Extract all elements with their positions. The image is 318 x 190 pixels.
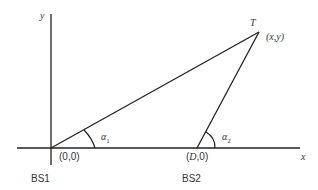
alpha1-subscript: 1 xyxy=(106,137,110,145)
target-coordinates: (x,y) xyxy=(266,32,284,42)
bs2-label: BS2 xyxy=(182,174,201,184)
angle-arc-alpha1 xyxy=(84,130,95,148)
bs2-d: D xyxy=(189,151,196,162)
target-letter: T xyxy=(250,18,256,28)
angle-label-alpha2: α2 xyxy=(222,132,231,145)
origin-coordinates: (0,0) xyxy=(59,152,80,162)
y-axis-label: y xyxy=(40,11,44,21)
bs1-label: BS1 xyxy=(31,174,50,184)
angle-arc-alpha2 xyxy=(206,132,215,148)
bs2-coordinates: (D,0) xyxy=(186,152,208,162)
diagram-canvas xyxy=(0,0,318,190)
angle-label-alpha1: α1 xyxy=(101,132,110,145)
x-axis-label: x xyxy=(301,152,305,162)
alpha2-subscript: 2 xyxy=(227,137,231,145)
